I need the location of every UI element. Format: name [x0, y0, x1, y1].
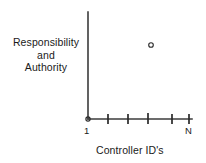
- figure-container: Responsibility and Authority 1 N Control…: [0, 0, 206, 163]
- plot-canvas: [0, 0, 206, 163]
- data-point-marker: [149, 43, 154, 48]
- y-axis-label-line-2: and: [8, 49, 84, 62]
- x-axis-tick-label-start: 1: [84, 125, 89, 136]
- y-axis-label-line-3: Authority: [8, 61, 84, 74]
- y-axis-label-line-1: Responsibility: [8, 36, 84, 49]
- x-axis-title: Controller ID's: [96, 144, 164, 156]
- x-axis-tick-label-end: N: [185, 125, 192, 136]
- y-axis-label: Responsibility and Authority: [8, 36, 84, 74]
